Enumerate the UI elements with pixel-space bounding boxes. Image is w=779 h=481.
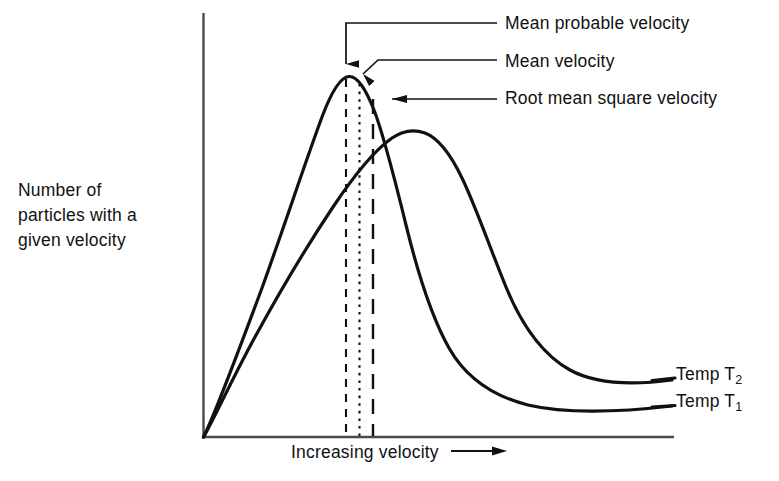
right-arrow-icon [451,440,507,463]
annotation-label-root-mean-square-velocity: Root mean square velocity [505,87,717,110]
leader-temp-t1 [652,406,675,408]
y-axis-label-line-1: Number of [18,178,137,203]
distribution-curves [204,76,673,437]
annotation-leaders [346,23,497,99]
curve-label-temp-t1-prefix: Temp T [676,391,735,411]
annotation-label-mean-velocity: Mean velocity [505,50,615,73]
curve-temp-t1 [204,76,673,437]
curve-label-temp-t2-subscript: 2 [735,373,742,387]
leader-mean-velocity [363,60,497,74]
curve-label-temp-t2-prefix: Temp T [676,364,735,384]
y-axis-label-line-3: given velocity [18,228,137,253]
axes [202,13,674,438]
velocity-distribution-figure: Number of particles with a given velocit… [0,0,779,481]
curve-label-temp-t2: Temp T2 [676,363,742,386]
y-axis-label: Number of particles with a given velocit… [18,178,137,253]
vertical-markers [346,79,373,436]
x-axis-label: Increasing velocity [291,441,507,464]
annotation-label-mean-probable-velocity: Mean probable velocity [505,12,689,35]
curve-label-temp-t1-subscript: 1 [735,400,742,414]
curve-temp-t2 [204,131,673,437]
x-axis-label-text: Increasing velocity [291,442,439,462]
y-axis-label-line-2: particles with a [18,203,137,228]
curve-label-temp-t1: Temp T1 [676,390,742,413]
leader-mean-probable-velocity [346,23,497,64]
